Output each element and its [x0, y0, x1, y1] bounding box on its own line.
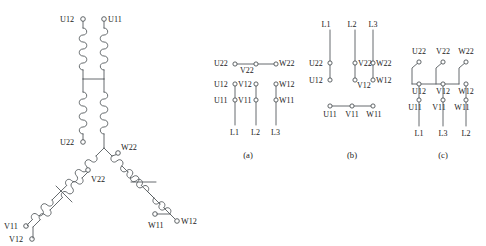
label-a-v12: V12: [238, 80, 252, 89]
node-b-v11[interactable]: [350, 104, 354, 108]
caption-b: (b): [347, 150, 357, 160]
label-b-w12: W12: [376, 76, 392, 85]
label-a-w12: W12: [279, 80, 295, 89]
terminal-node-w22[interactable]: [116, 151, 121, 156]
label-c-w22: W22: [458, 47, 474, 56]
terminal-node-v12[interactable]: [30, 237, 35, 242]
coil-u11-lower: [100, 79, 108, 148]
label-b-l2: L2: [348, 20, 357, 29]
node-a-w12[interactable]: [274, 82, 278, 86]
coil-v22: [60, 148, 104, 192]
terminal-node-v22[interactable]: [86, 168, 91, 173]
label-c-l2: L2: [462, 129, 471, 138]
node-a-v11[interactable]: [254, 98, 258, 102]
label-a-u12: U12: [214, 80, 228, 89]
label-c-u22: U22: [412, 47, 426, 56]
coil-u12-lower: [79, 79, 87, 141]
coil-v12: [56, 172, 88, 204]
caption-a: (a): [243, 150, 253, 160]
label-a-u11: U11: [214, 96, 227, 105]
node-c-u22[interactable]: [417, 60, 421, 64]
label-b-w11: W11: [366, 110, 381, 119]
label-c-l3: L3: [439, 129, 448, 138]
label-c-v12: V12: [436, 87, 450, 96]
terminal-diagram-c: U22 V22 W22 U12 V12 W12 U11 V11 W11 L1 L…: [408, 47, 474, 160]
node-c-w11[interactable]: [464, 98, 468, 102]
label-u22: U22: [60, 138, 74, 147]
link-c-u22: [412, 62, 419, 84]
label-a-v22: V22: [240, 66, 254, 75]
node-a-w11[interactable]: [274, 98, 278, 102]
node-c-u11[interactable]: [417, 98, 421, 102]
label-a-u22: U22: [214, 59, 228, 68]
label-b-u22: U22: [309, 59, 323, 68]
label-a-w22: W22: [279, 59, 295, 68]
coil-u12-upper: [79, 20, 87, 79]
label-a-v11: V11: [238, 96, 251, 105]
label-c-w11: W11: [454, 103, 469, 112]
label-b-u12: U12: [309, 76, 323, 85]
label-w11: W11: [148, 221, 164, 230]
node-b-v22[interactable]: [353, 61, 357, 65]
terminal-node-u12[interactable]: [81, 17, 86, 22]
label-b-v12: V12: [357, 81, 371, 90]
coil-v11: [27, 192, 60, 225]
label-c-u12: U12: [412, 87, 426, 96]
label-w22: W22: [121, 143, 137, 152]
node-b-w12[interactable]: [371, 78, 375, 82]
label-a-l3: L3: [271, 128, 280, 137]
label-v11: V11: [4, 222, 18, 231]
label-b-v11: V11: [345, 110, 358, 119]
caption-c: (c): [438, 150, 448, 160]
coil-w12-lower: [154, 198, 176, 220]
star-delta-winding-schematic: U12 U11 U22 W22 V22 V11 V12 W11 W12: [4, 15, 197, 244]
label-b-v22: V22: [358, 59, 372, 68]
node-c-w12[interactable]: [464, 82, 468, 86]
link-c-w22: [459, 62, 466, 84]
terminal-diagram-a: U22 V22 W22 U12 V12 W12 U11 V11 W11 L1 L…: [214, 59, 295, 160]
coil-v12-lower: [33, 204, 56, 227]
label-a-l2: L2: [251, 128, 260, 137]
node-b-u22[interactable]: [328, 61, 332, 65]
label-b-l3: L3: [369, 20, 378, 29]
terminal-node-u11[interactable]: [102, 17, 107, 22]
node-c-u12[interactable]: [417, 82, 421, 86]
node-a-u11[interactable]: [233, 98, 237, 102]
node-a-v12[interactable]: [254, 82, 258, 86]
label-v22: V22: [91, 175, 105, 184]
node-c-v11[interactable]: [441, 98, 445, 102]
label-u12: U12: [60, 15, 74, 24]
node-c-v22[interactable]: [441, 60, 445, 64]
coil-u11-upper: [100, 20, 108, 79]
label-v12: V12: [9, 235, 23, 244]
node-b-u11[interactable]: [328, 104, 332, 108]
terminal-node-u22[interactable]: [81, 140, 86, 145]
node-a-u12[interactable]: [233, 82, 237, 86]
label-c-v22: V22: [436, 47, 450, 56]
node-a-u22[interactable]: [233, 62, 237, 66]
link-c-v22: [436, 62, 443, 84]
node-a-w22[interactable]: [274, 62, 278, 66]
label-b-u11: U11: [323, 110, 336, 119]
label-u11: U11: [108, 15, 122, 24]
node-b-u12[interactable]: [328, 78, 332, 82]
label-c-u11: U11: [408, 103, 421, 112]
node-b-w11[interactable]: [371, 104, 375, 108]
label-c-w12: W12: [458, 87, 474, 96]
label-a-l1: L1: [230, 128, 239, 137]
node-a-v22[interactable]: [254, 62, 258, 66]
label-c-l1: L1: [415, 129, 424, 138]
node-c-w22[interactable]: [464, 60, 468, 64]
label-a-w11: W11: [279, 96, 294, 105]
label-w12: W12: [181, 217, 197, 226]
terminal-node-w12[interactable]: [175, 219, 180, 224]
terminal-diagram-b: L1 L2 L3 U22 V22 W22 U12 V12 W12 U11 V11…: [309, 20, 392, 160]
label-c-v11: V11: [432, 103, 445, 112]
label-b-l1: L1: [322, 20, 331, 29]
figure-canvas: U12 U11 U22 W22 V22 V11 V12 W11 W12 U: [0, 0, 486, 246]
label-b-w22: W22: [376, 59, 392, 68]
node-c-v12[interactable]: [441, 82, 445, 86]
